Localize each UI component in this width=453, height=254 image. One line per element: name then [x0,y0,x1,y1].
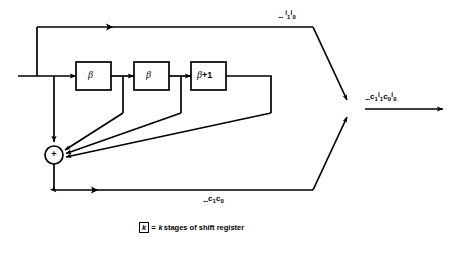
subscript-0: 0 [393,96,396,102]
subscript-0: 0 [220,198,223,204]
block-label-beta-1: β [88,69,93,80]
block-beta-2 [134,62,169,90]
path-direction-arrowheads [91,23,113,193]
legend-k-box: k [139,222,149,233]
bottom-path-diagonal [313,117,347,190]
tap3-diagonal [66,113,271,157]
tap2-diagonal [66,113,181,154]
adder-output-bottom-path [54,164,313,190]
label-top-signal: ... i1i0 [278,9,296,20]
top-path-diagonal [313,27,347,100]
ellipsis-glyph: ... [278,11,283,20]
label-bottom-signal: ...c1c0 [203,194,224,204]
legend-text: stages of shift register [164,223,244,232]
block-beta-1 [76,62,111,90]
tap3-out [226,76,271,113]
label-output-signal: ...c1i1c0i0 [365,91,397,102]
plus-icon: + [49,150,59,159]
figure-root: β β β+1 + ... i1i0 ...c1i1c0i0 ...c1c0 k… [0,0,453,254]
diagram-canvas [0,0,453,254]
legend-equals: = [151,223,155,232]
block-label-beta-2: β [146,69,151,80]
legend-k-italic: k [159,223,163,232]
subscript-0: 0 [292,14,295,20]
block-label-beta-plus-1: β+1 [197,69,212,80]
legend-caption: k=k stages of shift register [139,222,244,233]
plus-one-glyph: +1 [202,70,212,80]
